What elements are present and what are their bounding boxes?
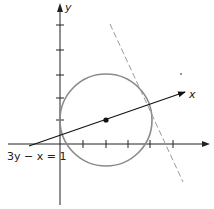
y-axis-label: y [64, 1, 72, 14]
small-dot [180, 73, 182, 75]
diagram-canvas: y x 3y − x = 1 [0, 0, 214, 209]
dashed-line [110, 24, 183, 182]
x-axis-arrow-icon [202, 141, 210, 147]
center-point [103, 117, 108, 122]
y-axis-arrow-icon [57, 3, 63, 12]
rotated-x-axis-label: x [188, 88, 196, 101]
equation-label: 3y − x = 1 [7, 150, 66, 163]
x-axis [8, 140, 210, 148]
